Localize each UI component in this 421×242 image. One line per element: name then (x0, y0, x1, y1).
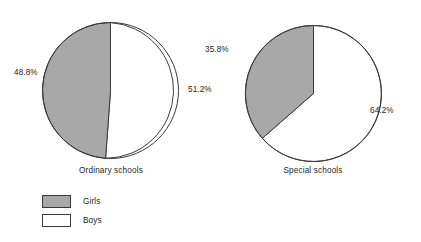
pie-caption-special-schools: Special schools (262, 166, 364, 175)
pie-label-girls-special: 35.8% (205, 45, 229, 54)
legend-label-boys: Boys (83, 216, 102, 225)
legend-label-girls: Girls (83, 197, 101, 206)
legend-swatch-girls-icon (42, 195, 71, 208)
pie-label-girls-ordinary: 48.8% (14, 68, 38, 77)
legend-item-boys: Boys (42, 212, 162, 229)
pie-slice-boys-ordinary (106, 23, 174, 159)
pie-caption-ordinary-schools: Ordinary schools (60, 166, 162, 175)
legend-swatch-boys-icon (42, 214, 71, 227)
chart-legend: Girls Boys (42, 193, 162, 231)
pie-chart-special-schools (245, 25, 382, 162)
pie-slice-girls-ordinary (43, 23, 111, 159)
legend-item-girls: Girls (42, 193, 162, 210)
pie-label-boys-special: 64.2% (370, 106, 394, 115)
pie-chart-ordinary-schools (42, 22, 179, 159)
pie-label-boys-ordinary: 51.2% (188, 85, 212, 94)
pie-chart-figure: 48.8% 51.2% Ordinary schools 35.8% 64.2%… (0, 0, 421, 242)
